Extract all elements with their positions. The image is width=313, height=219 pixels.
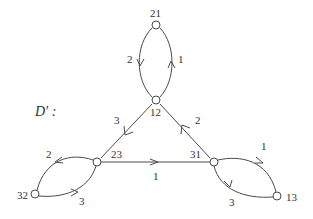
edge-32-23	[39, 166, 96, 196]
edge-label-12-21: 1	[178, 53, 184, 65]
edge-21-12	[139, 28, 152, 97]
edge-31-12	[160, 104, 210, 158]
edge-label-32-23: 3	[79, 195, 85, 207]
arrow-down-left-icon	[124, 126, 133, 135]
edge-12-23	[101, 104, 152, 158]
arrow-up-left-icon	[181, 125, 190, 134]
edge-label-23-32: 2	[46, 148, 52, 160]
edge-label-12-23: 3	[114, 114, 120, 126]
node-31	[210, 158, 218, 166]
node-13	[273, 192, 281, 200]
edge-label-21-12: 2	[127, 53, 133, 65]
arrow-left-icon	[255, 157, 263, 163]
edge-label-23-31: 1	[153, 170, 159, 182]
edge-label-13-31: 1	[261, 140, 267, 152]
node-32	[31, 190, 39, 198]
node-label-21: 21	[150, 7, 161, 19]
arrow-down-right-icon	[224, 180, 232, 187]
digraph-d-prime: D′ : 2 1 3 2 1 2 3 1 3 21 12 23 31 32 13	[0, 0, 313, 219]
arrow-right-icon	[71, 189, 78, 196]
edge-13-31	[218, 158, 276, 192]
edge-label-31-12: 2	[195, 114, 201, 126]
node-label-23: 23	[111, 148, 123, 160]
node-23	[93, 158, 101, 166]
graph-title: D′ :	[34, 104, 56, 119]
arrow-down-icon	[137, 59, 144, 66]
node-label-12: 12	[150, 106, 161, 118]
node-label-31: 31	[190, 148, 201, 160]
node-21	[152, 21, 160, 29]
edge-label-31-13: 3	[229, 196, 235, 208]
node-label-13: 13	[286, 191, 298, 203]
node-12	[152, 96, 160, 104]
node-label-32: 32	[17, 189, 28, 201]
edge-23-32	[37, 157, 93, 190]
